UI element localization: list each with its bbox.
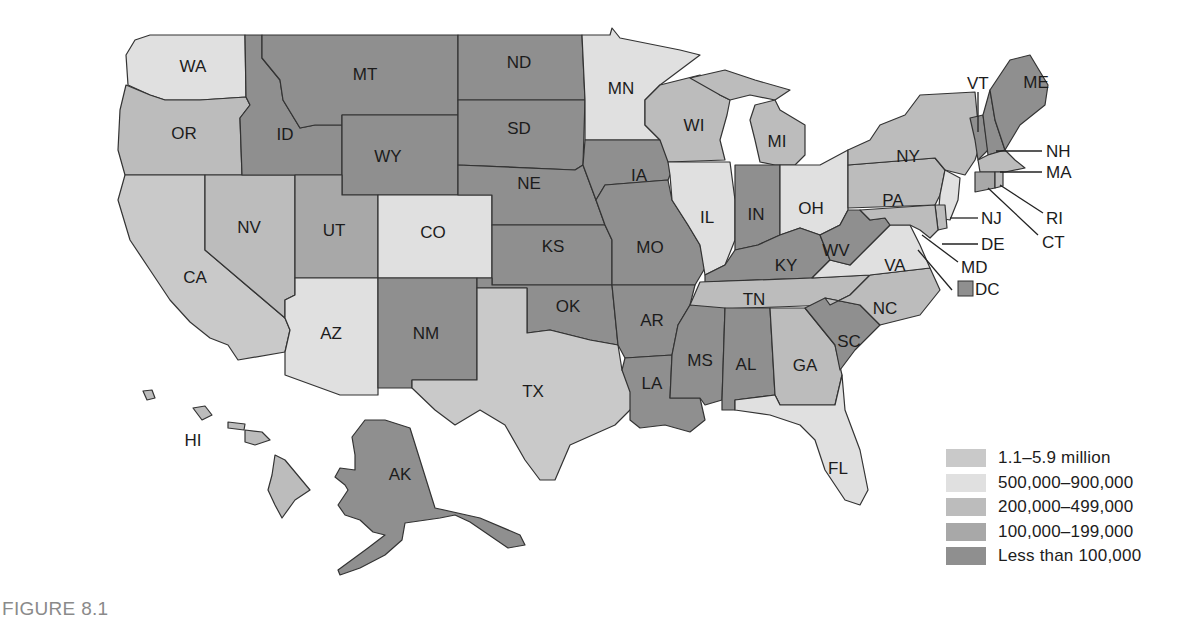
label-VT: VT: [967, 74, 989, 93]
state-AK: [335, 420, 525, 575]
label-WI: WI: [684, 116, 705, 135]
label-DC: DC: [975, 280, 1000, 299]
label-CO: CO: [420, 223, 446, 242]
label-HI: HI: [185, 431, 202, 450]
state-HI-maui: [245, 430, 270, 445]
label-MD: MD: [961, 258, 987, 277]
label-MN: MN: [608, 79, 634, 98]
legend-swatch: [946, 449, 986, 467]
label-MI: MI: [768, 132, 787, 151]
label-ME: ME: [1023, 73, 1049, 92]
label-MO: MO: [636, 238, 663, 257]
label-TX: TX: [522, 382, 544, 401]
legend-swatch: [946, 498, 986, 516]
figure-caption: FIGURE 8.1: [2, 598, 108, 620]
legend: 1.1–5.9 million 500,000–900,000 200,000–…: [946, 446, 1141, 569]
legend-label: 1.1–5.9 million: [998, 448, 1111, 468]
label-NC: NC: [873, 299, 898, 318]
legend-item: 200,000–499,000: [946, 495, 1141, 520]
legend-label: Less than 100,000: [998, 546, 1141, 566]
legend-label: 100,000–199,000: [998, 522, 1133, 542]
label-RI: RI: [1046, 209, 1063, 228]
label-GA: GA: [793, 356, 818, 375]
label-IN: IN: [748, 205, 765, 224]
legend-swatch: [946, 523, 986, 541]
dc-swatch: [958, 281, 973, 296]
label-WV: WV: [822, 241, 850, 260]
label-AR: AR: [640, 311, 664, 330]
label-ID: ID: [277, 125, 294, 144]
label-TN: TN: [743, 290, 766, 309]
legend-swatch: [946, 547, 986, 565]
label-KY: KY: [775, 256, 798, 275]
legend-swatch: [946, 474, 986, 492]
label-SD: SD: [507, 119, 531, 138]
label-AL: AL: [736, 355, 757, 374]
legend-label: 200,000–499,000: [998, 497, 1133, 517]
label-CT: CT: [1042, 233, 1065, 252]
label-MS: MS: [687, 351, 713, 370]
label-NE: NE: [517, 174, 541, 193]
label-DE: DE: [981, 235, 1005, 254]
state-HI-molokai: [228, 422, 245, 430]
state-HI-big: [268, 455, 310, 518]
label-SC: SC: [837, 332, 861, 351]
label-NJ: NJ: [981, 209, 1002, 228]
label-NV: NV: [237, 218, 261, 237]
label-FL: FL: [828, 459, 848, 478]
label-VA: VA: [884, 256, 906, 275]
label-OK: OK: [556, 297, 581, 316]
label-WY: WY: [374, 147, 401, 166]
label-NY: NY: [896, 147, 920, 166]
label-WA: WA: [180, 57, 207, 76]
legend-item: 100,000–199,000: [946, 520, 1141, 545]
label-ND: ND: [507, 53, 532, 72]
label-MA: MA: [1046, 163, 1072, 182]
label-NM: NM: [413, 324, 439, 343]
label-OR: OR: [171, 124, 197, 143]
label-KS: KS: [542, 237, 565, 256]
label-AZ: AZ: [320, 324, 342, 343]
state-CT: [975, 172, 995, 192]
label-OH: OH: [798, 199, 824, 218]
label-IL: IL: [700, 208, 714, 227]
label-NH: NH: [1046, 142, 1071, 161]
label-AK: AK: [389, 465, 412, 484]
label-IA: IA: [631, 166, 648, 185]
label-UT: UT: [323, 221, 346, 240]
label-LA: LA: [642, 374, 663, 393]
label-CA: CA: [183, 268, 207, 287]
label-MT: MT: [353, 65, 378, 84]
legend-item: Less than 100,000: [946, 544, 1141, 569]
legend-item: 1.1–5.9 million: [946, 446, 1141, 471]
label-PA: PA: [882, 191, 904, 210]
state-HI-kauai: [143, 390, 155, 400]
state-HI-oahu: [193, 406, 212, 420]
legend-item: 500,000–900,000: [946, 471, 1141, 496]
legend-label: 500,000–900,000: [998, 473, 1133, 493]
